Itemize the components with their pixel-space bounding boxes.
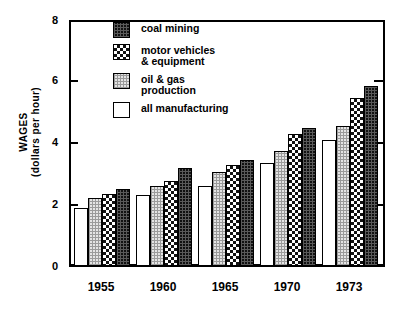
legend-entry-oil-gas-production: oil & gas production (113, 73, 293, 96)
bar-1970-oil-gas-production (274, 151, 288, 266)
bar-1960-oil-gas-production (150, 186, 164, 266)
x-tick-label-1955: 1955 (66, 280, 136, 294)
bar-1973-coal-mining (364, 86, 378, 266)
bar-1960-all-manufacturing (136, 195, 150, 266)
legend-entry-motor-vehicles: motor vehicles & equipment (113, 44, 293, 67)
bar-1965-coal-mining (240, 160, 254, 266)
x-tick-label-1960: 1960 (128, 280, 198, 294)
bar-1965-oil-gas-production (212, 172, 226, 266)
bar-1970-all-manufacturing (260, 163, 274, 266)
legend-swatch-coal-mining-icon (113, 22, 130, 38)
x-tick-label-1973: 1973 (314, 280, 384, 294)
y-tick-label-8: 8 (32, 15, 58, 25)
legend-swatch-all-manufacturing-icon (113, 102, 130, 118)
bar-1955-oil-gas-production (88, 198, 102, 266)
legend-label-coal-mining: coal mining (141, 22, 199, 34)
bar-group-1973 (319, 20, 379, 266)
y-tick-label-0: 0 (32, 261, 58, 271)
x-tick-label-1965: 1965 (190, 280, 260, 294)
bar-1970-motor-vehicles (288, 134, 302, 266)
bar-1973-motor-vehicles (350, 98, 364, 266)
bar-1960-coal-mining (178, 168, 192, 267)
bar-1955-coal-mining (116, 189, 130, 266)
legend-label-motor-vehicles: motor vehicles & equipment (141, 44, 215, 67)
chart-legend: coal mining motor vehicles & equipment o… (113, 22, 293, 124)
bar-1960-motor-vehicles (164, 181, 178, 266)
legend-entry-coal-mining: coal mining (113, 22, 293, 38)
y-tick-label-4: 4 (32, 137, 58, 147)
legend-entry-all-manufacturing: all manufacturing (113, 102, 293, 118)
bar-chart-figure: WAGES (dollars per hour) 8 6 4 2 0 (0, 0, 404, 312)
bar-1970-coal-mining (302, 128, 316, 267)
bar-1973-all-manufacturing (322, 140, 336, 266)
bar-1955-motor-vehicles (102, 194, 116, 266)
y-tick-label-6: 6 (32, 75, 58, 85)
bar-1955-all-manufacturing (74, 208, 88, 267)
legend-label-all-manufacturing: all manufacturing (141, 102, 229, 114)
bar-1973-oil-gas-production (336, 126, 350, 266)
bar-1965-all-manufacturing (198, 186, 212, 266)
y-tick-label-2: 2 (32, 199, 58, 209)
legend-label-oil-gas-production: oil & gas production (141, 73, 196, 96)
legend-swatch-motor-vehicles-icon (113, 44, 130, 60)
legend-swatch-oil-gas-icon (113, 73, 130, 89)
x-tick-label-1970: 1970 (252, 280, 322, 294)
bar-1965-motor-vehicles (226, 165, 240, 267)
